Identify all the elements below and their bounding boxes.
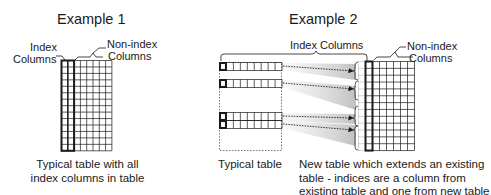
typical-table-selected-rows	[220, 63, 283, 129]
index-leader-line	[56, 56, 65, 60]
example1-table-grid	[62, 61, 112, 151]
nonindex-columns-brace	[374, 52, 413, 60]
index-columns-brace	[221, 51, 367, 61]
example1-diagram	[56, 48, 112, 151]
example2-diagram	[220, 47, 415, 151]
new-table-grid	[359, 62, 415, 151]
mapping-beams	[282, 63, 356, 146]
diagram-canvas	[0, 0, 491, 195]
nonindex-brace	[75, 53, 103, 60]
typical-table-outline	[220, 63, 282, 151]
